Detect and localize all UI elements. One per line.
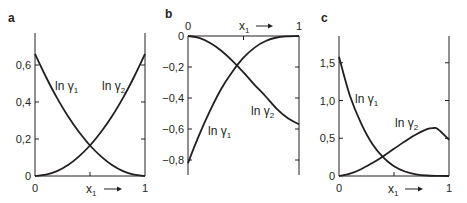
x-tick-label: 1: [142, 182, 148, 194]
y-tick-label: 0,4: [16, 96, 31, 108]
panel-b: b 0 −0,2 −0,4 −0,6 −0,8 0 1 x1 ln γ1 ln …: [162, 7, 302, 175]
x-tick-label: 1: [296, 20, 302, 32]
x-axis-label: x1: [388, 182, 399, 198]
arrow-head-icon: [268, 24, 273, 29]
series-ln-gamma2: [339, 128, 449, 176]
x-axis-label: x1: [239, 19, 250, 35]
ticks: [339, 63, 449, 176]
y-tick-label: −0,2: [162, 61, 184, 73]
annotation-ln-gamma1: ln γ1: [55, 79, 79, 95]
x-tick-label: 0: [185, 20, 191, 32]
x-tick-label: 1: [446, 182, 452, 194]
y-tick-label: 1,0: [320, 95, 335, 107]
y-tick-label: 0: [178, 30, 184, 42]
y-tick-label: 0: [329, 170, 335, 182]
x-tick-label: 0: [32, 182, 38, 194]
arrow-head-icon: [418, 187, 423, 192]
panel-c: c 0 0,5 1,0 1,5 0 1 x1 ln γ1 ln γ2: [320, 11, 452, 198]
annotation-ln-gamma2: ln γ2: [395, 116, 419, 132]
y-tick-label: 0,6: [16, 59, 31, 71]
y-tick-label: 1,5: [320, 57, 335, 69]
x-axis-label: x1: [86, 182, 97, 198]
arrow-head-icon: [117, 187, 122, 192]
annotation-ln-gamma1: ln γ1: [208, 124, 232, 140]
y-tick-label: 0: [25, 170, 31, 182]
y-tick-label: −0,6: [162, 123, 184, 135]
series-ln-gamma2: [35, 54, 145, 176]
annotation-ln-gamma2: ln γ2: [102, 79, 126, 95]
activity-coefficient-figure: a 0 0,2 0,4 0,6 0 1 x1 ln γ1 ln γ2 b 0 −…: [0, 0, 467, 203]
panel-a: a 0 0,2 0,4 0,6 0 1 x1 ln γ1 ln γ2: [8, 11, 148, 198]
y-tick-label: 0,2: [16, 133, 31, 145]
annotation-ln-gamma1: ln γ1: [355, 92, 379, 108]
panel-label-c: c: [321, 11, 328, 25]
y-tick-label: 0,5: [320, 132, 335, 144]
ticks: [35, 65, 145, 176]
series-ln-gamma2: [188, 36, 299, 124]
panel-label-a: a: [8, 11, 15, 25]
x-tick-label: 0: [336, 182, 342, 194]
series-ln-gamma1: [35, 54, 145, 176]
series-ln-gamma1: [339, 57, 449, 176]
panel-label-b: b: [165, 7, 172, 21]
annotation-ln-gamma2: ln γ2: [251, 104, 275, 120]
y-tick-label: −0,4: [162, 92, 184, 104]
y-tick-label: −0,8: [162, 154, 184, 166]
series-ln-gamma1: [188, 36, 299, 163]
ticks: [188, 36, 299, 160]
